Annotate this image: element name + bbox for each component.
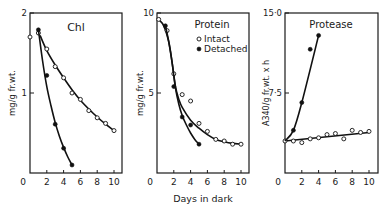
chl-title: Chl — [67, 21, 85, 34]
detached-data-point-icon — [189, 123, 193, 127]
detached-data-point-icon — [197, 142, 201, 146]
detached-data-point-icon — [45, 73, 49, 77]
x-tick-label: 6 — [205, 177, 211, 187]
legend: Intact Detached — [197, 34, 247, 54]
intact-data-point-icon — [28, 35, 32, 39]
figure: Chl mg/g fr.wt. 024681012 Protein mg/g f… — [0, 0, 392, 209]
intact-data-point-icon — [180, 93, 184, 97]
chart-canvas: Chl mg/g fr.wt. 024681012 Protein mg/g f… — [0, 0, 392, 209]
y-tick-label: 5 — [149, 88, 154, 98]
detached-data-point-icon — [308, 47, 312, 51]
detached-data-point-icon — [317, 33, 321, 37]
intact-data-point-icon — [189, 99, 193, 103]
legend-detached-marker-icon — [197, 47, 201, 51]
protease-series — [283, 33, 371, 144]
y-tick-label: 7·5 — [268, 88, 282, 98]
x-tick-label: 2 — [44, 177, 50, 187]
y-tick-label: 10 — [143, 8, 154, 18]
x-tick-label: 0 — [20, 177, 26, 187]
intact-data-point-icon — [112, 129, 116, 133]
intact-data-point-icon — [350, 128, 354, 132]
intact-data-point-icon — [157, 17, 161, 21]
chl-y-axis-label: mg/g fr.wt. — [7, 70, 17, 116]
chl-panel: Chl mg/g fr.wt. 024681012 — [7, 8, 122, 187]
intact-data-point-icon — [70, 91, 74, 95]
intact-data-point-icon — [95, 116, 99, 120]
x-tick-label: 2 — [171, 177, 177, 187]
x-tick-label: 8 — [349, 177, 355, 187]
x-tick-label: 0 — [147, 177, 153, 187]
detached-data-point-icon — [36, 28, 40, 32]
detached-data-point-icon — [70, 163, 74, 167]
x-tick-label: 8 — [94, 177, 100, 187]
y-tick-label: 15·0 — [263, 8, 282, 18]
detached-fit-curve — [38, 30, 72, 165]
intact-data-point-icon — [231, 142, 235, 146]
intact-data-point-icon — [222, 139, 226, 143]
intact-data-point-icon — [308, 137, 312, 141]
intact-data-point-icon — [53, 65, 57, 69]
intact-data-point-icon — [291, 139, 295, 143]
x-tick-label: 4 — [61, 177, 67, 187]
protein-panel: Protein mg/g fr.wt. Intact Detached 0246… — [135, 8, 249, 204]
x-tick-label: 2 — [299, 177, 305, 187]
protein-axis-ticks: 0246810510 — [143, 8, 247, 187]
intact-data-point-icon — [239, 142, 243, 146]
intact-data-point-icon — [87, 109, 91, 113]
x-tick-label: 10 — [108, 177, 120, 187]
intact-data-point-icon — [367, 129, 371, 133]
detached-data-point-icon — [172, 85, 176, 89]
x-tick-label: 10 — [235, 177, 247, 187]
protein-y-axis-label: mg/g fr.wt. — [135, 70, 145, 116]
x-tick-label: 10 — [363, 177, 375, 187]
protein-title: Protein — [194, 19, 229, 30]
protease-plot-frame — [285, 13, 378, 173]
intact-data-point-icon — [78, 97, 82, 101]
x-tick-label: 6 — [78, 177, 84, 187]
protein-plot-frame — [157, 13, 249, 173]
x-tick-label: 4 — [188, 177, 194, 187]
intact-data-point-icon — [45, 47, 49, 51]
intact-data-point-icon — [317, 136, 321, 140]
intact-data-point-icon — [205, 129, 209, 133]
protease-title: Protease — [309, 19, 352, 30]
x-tick-label: 8 — [221, 177, 227, 187]
detached-data-point-icon — [180, 115, 184, 119]
legend-intact-marker-icon — [197, 37, 201, 41]
x-axis-label: Days in dark — [173, 193, 233, 204]
x-tick-label: 0 — [275, 177, 281, 187]
legend-detached-label: Detached — [204, 44, 247, 54]
y-tick-label: 2 — [22, 8, 27, 18]
detached-data-point-icon — [300, 101, 304, 105]
chl-plot-frame — [30, 13, 122, 173]
x-tick-label: 6 — [333, 177, 339, 187]
chl-series — [28, 28, 116, 167]
intact-data-point-icon — [342, 137, 346, 141]
intact-data-point-icon — [104, 121, 108, 125]
intact-data-point-icon — [325, 133, 329, 137]
detached-data-point-icon — [62, 146, 66, 150]
intact-data-point-icon — [300, 141, 304, 145]
detached-data-point-icon — [163, 24, 167, 28]
y-tick-label: 1 — [22, 88, 27, 98]
intact-data-point-icon — [359, 130, 363, 134]
detached-fit-curve — [285, 35, 319, 141]
protease-panel: Protease A340/g fr.wt. x h 02468107·515·… — [262, 8, 378, 187]
detached-data-point-icon — [53, 122, 57, 126]
intact-data-point-icon — [62, 76, 66, 80]
intact-data-point-icon — [214, 137, 218, 141]
intact-data-point-icon — [333, 132, 337, 136]
detached-data-point-icon — [291, 128, 295, 132]
legend-intact-label: Intact — [204, 34, 230, 44]
detached-fit-curve — [165, 26, 199, 144]
intact-fit-curve — [40, 35, 114, 130]
x-tick-label: 4 — [316, 177, 322, 187]
intact-data-point-icon — [197, 121, 201, 125]
